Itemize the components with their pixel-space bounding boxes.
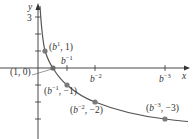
point-bm3-m3 (162, 116, 167, 121)
x-tick-label-bm3: b−3 (159, 73, 171, 85)
x-axis-label: x (182, 72, 186, 82)
x-tick-label-bm1: b−1 (61, 55, 73, 67)
point-label-b1-1: (b1, 1) (49, 41, 73, 53)
point-1-0 (50, 65, 55, 70)
point-label-bm3-m3: (b−3, −3) (146, 102, 179, 114)
origin-leader-line (32, 69, 52, 75)
point-label-1-0: (1, 0) (10, 68, 31, 78)
x-axis-arrow-icon (184, 66, 190, 71)
y-tick-label-3: 3 (27, 14, 32, 24)
point-label-bm1-m1: (b−1, −1) (44, 85, 77, 97)
x-tick-label-bm2: b−2 (90, 73, 102, 85)
y-axis-label: y (28, 3, 32, 13)
point-b1-1 (42, 48, 47, 53)
point-label-bm2-m2: (b−2, −2) (70, 104, 103, 116)
